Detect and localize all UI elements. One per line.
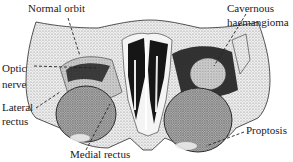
left-globe [56,86,116,142]
label-proptosis: Proptosis [246,124,287,136]
label-lateral-line2: rectus [2,114,33,128]
label-optic-nerve: Optic nerve [2,60,26,92]
haemangioma-mass [190,58,226,90]
label-normal-orbit: Normal orbit [28,2,85,14]
label-lateral-rectus: Lateral rectus [2,100,33,128]
label-optic-line2: nerve [2,76,26,92]
label-medial-rectus: Medial rectus [70,148,130,160]
label-cavernous-haemangioma: Cavernous haemangioma [227,1,289,29]
label-lateral-line1: Lateral [2,100,33,114]
label-cavernous-line2: haemangioma [227,15,289,29]
label-cavernous-line1: Cavernous [227,1,289,15]
label-optic-line1: Optic [2,60,26,76]
right-globe [164,88,232,152]
